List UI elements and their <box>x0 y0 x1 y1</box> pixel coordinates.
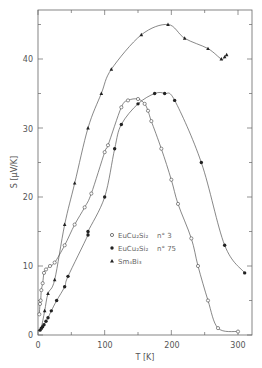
open-circle-marker <box>120 106 123 109</box>
open-circle-marker <box>48 264 51 267</box>
legend: EuCu₂Si₂ n° 3 EuCu₂Si₂ n° 75 Sm₄Bi₃ <box>110 232 176 266</box>
open-circle-marker <box>73 223 76 226</box>
filled-triangle-marker <box>73 181 77 184</box>
filled-circle-marker <box>120 123 123 126</box>
filled-circle-marker <box>44 320 47 323</box>
open-circle-marker <box>103 151 106 154</box>
open-circle-marker <box>39 299 42 302</box>
open-circle-marker <box>90 192 93 195</box>
x-tick-0: 0 <box>35 341 40 350</box>
filled-triangle-marker <box>43 309 47 312</box>
filled-circle-marker <box>86 233 89 236</box>
legend-suffix-2: n° 75 <box>157 245 176 253</box>
curve-series-2 <box>40 92 245 330</box>
open-circle-marker <box>160 147 163 150</box>
curve-series-1 <box>39 99 238 332</box>
open-circle-marker <box>206 299 209 302</box>
y-axis-label: S [μV/K] <box>10 156 19 188</box>
filled-triangle-marker <box>53 278 57 281</box>
filled-triangle-marker <box>220 57 224 60</box>
legend-label-3: Sm₄Bi₃ <box>118 258 142 266</box>
y-tick-30: 30 <box>23 125 33 134</box>
y-tick-40: 40 <box>23 55 33 64</box>
filled-triangle-marker <box>63 223 67 226</box>
open-circle-marker <box>150 120 153 123</box>
filled-circle-marker <box>243 271 246 274</box>
open-circle-marker <box>196 264 199 267</box>
legend-suffix-1: n° 3 <box>157 232 172 240</box>
open-circle-marker <box>146 109 149 112</box>
y-tick-20: 20 <box>23 193 33 202</box>
open-circle-marker <box>53 261 56 264</box>
x-axis-label: T [K] <box>135 353 155 362</box>
filled-triangle-marker <box>183 36 187 39</box>
filled-triangle-marker <box>100 92 104 95</box>
y-tick-10: 10 <box>23 262 33 271</box>
filled-circle-marker <box>103 195 106 198</box>
filled-circle-marker <box>86 230 89 233</box>
filled-circle-marker <box>153 92 156 95</box>
open-circle-marker <box>106 144 109 147</box>
filled-circle-marker <box>223 244 226 247</box>
axis-ticks <box>38 10 252 335</box>
open-circle-marker <box>236 330 239 333</box>
open-circle-marker <box>216 327 219 330</box>
open-circle-marker <box>42 271 45 274</box>
open-circle-marker <box>143 102 146 105</box>
open-circle-marker <box>83 206 86 209</box>
filled-circle-marker <box>50 309 53 312</box>
legend-label-1: EuCu₂Si₂ <box>118 232 148 240</box>
legend-label-2: EuCu₂Si₂ <box>118 245 148 253</box>
plot-frame <box>38 10 252 335</box>
filled-triangle-marker <box>46 292 50 295</box>
open-circle-marker <box>63 244 66 247</box>
x-tick-100: 100 <box>97 341 112 350</box>
x-tick-200: 200 <box>164 341 179 350</box>
filled-circle-marker <box>46 316 49 319</box>
filled-triangle-marker <box>140 33 144 36</box>
y-tick-0: 0 <box>28 331 33 340</box>
filled-circle-marker <box>136 102 139 105</box>
filled-triangle-marker <box>86 126 90 129</box>
open-circle-marker <box>41 282 44 285</box>
filled-circle-marker <box>66 275 69 278</box>
data-markers <box>38 23 247 334</box>
filled-circle-marker <box>173 99 176 102</box>
open-circle-marker <box>38 302 41 305</box>
open-circle-icon <box>110 233 113 236</box>
filled-circle-marker <box>55 299 58 302</box>
seebeck-chart: 0 100 200 300 0 10 20 30 40 T [K] S [μV/… <box>0 0 262 368</box>
open-circle-marker <box>38 313 41 316</box>
filled-triangle-marker <box>206 47 210 50</box>
open-circle-marker <box>176 202 179 205</box>
open-circle-marker <box>126 99 129 102</box>
filled-triangle-marker <box>225 53 229 56</box>
filled-circle-marker <box>200 161 203 164</box>
filled-triangle-icon <box>110 259 114 263</box>
filled-circle-marker <box>163 92 166 95</box>
filled-circle-marker <box>42 323 45 326</box>
curve-series-3 <box>41 24 226 328</box>
open-circle-marker <box>190 237 193 240</box>
filled-circle-icon <box>110 246 113 249</box>
open-circle-marker <box>136 97 139 100</box>
filled-circle-marker <box>113 147 116 150</box>
filled-circle-marker <box>63 285 66 288</box>
open-circle-marker <box>170 178 173 181</box>
x-tick-300: 300 <box>230 341 245 350</box>
data-curves <box>39 24 244 331</box>
open-circle-marker <box>40 289 43 292</box>
open-circle-marker <box>44 268 47 271</box>
